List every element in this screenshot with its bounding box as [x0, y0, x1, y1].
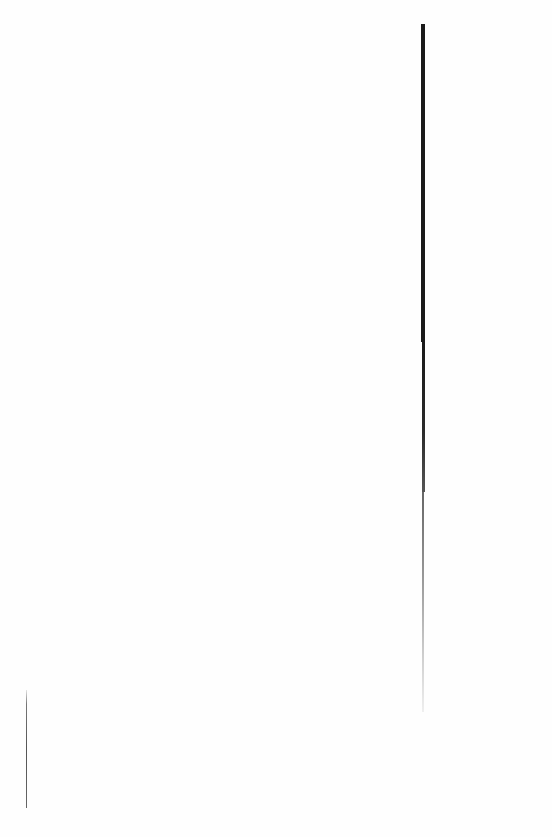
- vertical-rule-left: [26, 690, 27, 808]
- blank-page: [0, 0, 552, 837]
- vertical-rule-main-fade: [422, 492, 424, 712]
- vertical-rule-main-taper: [422, 342, 425, 492]
- vertical-rule-main: [421, 24, 425, 342]
